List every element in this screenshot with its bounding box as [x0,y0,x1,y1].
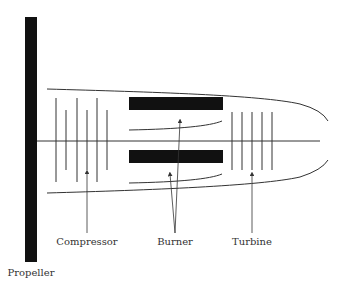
burner-liner-bottom [129,174,222,183]
burner-arrow-bottom [170,174,175,233]
compressor-blades [56,98,107,182]
label-burner: Burner [157,236,193,247]
label-compressor: Compressor [56,236,118,247]
label-turbine: Turbine [232,236,272,247]
burner-arrow-top [175,121,180,233]
burner-bar-bottom [129,150,223,163]
casing-outline-bottom [47,160,328,193]
turboprop-diagram: Compressor Burner Turbine Propeller [0,0,346,286]
burner-bar-top [129,97,223,110]
burner-liner-top [129,121,222,130]
propeller-bar [25,17,37,262]
label-propeller: Propeller [8,267,55,278]
callout-arrows [87,121,252,233]
